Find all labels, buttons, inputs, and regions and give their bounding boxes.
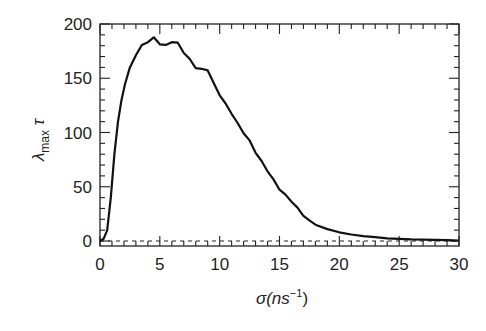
x-tick-label: 25 — [390, 255, 409, 274]
y-tick-label: 200 — [64, 15, 92, 34]
y-tick-label: 100 — [64, 124, 92, 143]
x-tick-label: 5 — [155, 255, 164, 274]
y-axis-label: λmax τ — [29, 117, 52, 162]
chart: 051015202530 050100150200 σ(ns−1) λmax τ — [0, 0, 486, 331]
x-tick-label: 15 — [270, 255, 289, 274]
y-tick-labels: 050100150200 — [64, 15, 92, 251]
y-tick-label: 150 — [64, 69, 92, 88]
x-axis-label: σ(ns−1) — [256, 287, 308, 308]
x-tick-label: 30 — [450, 255, 469, 274]
y-tick-label: 0 — [83, 232, 92, 251]
plot-frame — [100, 24, 459, 246]
y-tick-label: 50 — [73, 178, 92, 197]
x-tick-label: 10 — [210, 255, 229, 274]
x-tick-label: 20 — [330, 255, 349, 274]
x-tick-label: 0 — [95, 255, 104, 274]
axis-ticks — [100, 24, 459, 246]
x-tick-labels: 051015202530 — [95, 255, 468, 274]
data-curve — [100, 37, 459, 241]
